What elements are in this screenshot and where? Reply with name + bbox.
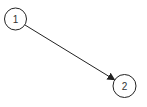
node-1-label: 1 [13, 14, 19, 25]
node-1[interactable]: 1 [5, 8, 27, 30]
node-2-label: 2 [122, 81, 128, 92]
edge-1-to-2 [25, 25, 115, 80]
graph-canvas: 1 2 [0, 0, 147, 107]
node-2[interactable]: 2 [113, 75, 136, 98]
